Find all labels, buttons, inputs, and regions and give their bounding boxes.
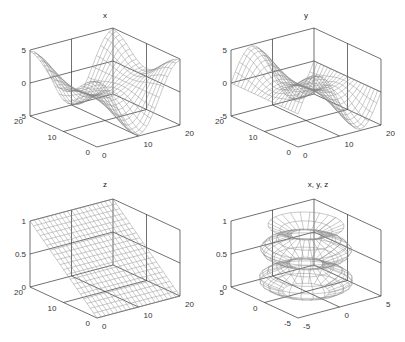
z-tick-label: 1 bbox=[22, 217, 27, 226]
z-tick-label: 0.5 bbox=[15, 250, 27, 259]
z-tick-label: 1 bbox=[223, 217, 228, 226]
wireframe-surface bbox=[231, 46, 381, 129]
subplot-y: y -5050102001020 bbox=[215, 11, 395, 160]
z-tick-label: 5 bbox=[22, 46, 27, 55]
grid-line bbox=[64, 281, 147, 303]
wireframe-surface bbox=[260, 212, 352, 300]
x-tick-label: 0 bbox=[102, 151, 107, 160]
wireframe-surface bbox=[30, 199, 180, 318]
y-tick-label: -5 bbox=[284, 319, 292, 328]
y-tick-label: 10 bbox=[249, 133, 258, 142]
x-tick-label: -5 bbox=[303, 322, 311, 331]
z-tick-label: 0.5 bbox=[216, 250, 228, 259]
y-tick-label: 0 bbox=[287, 148, 292, 157]
figure: x -5050102001020 y -5050102001020 z 00.5… bbox=[0, 0, 405, 342]
y-tick-label: 0 bbox=[86, 148, 91, 157]
x-tick-label: 20 bbox=[386, 129, 395, 138]
subplot-z: z 00.510102001020 bbox=[14, 180, 194, 331]
x-tick-label: 10 bbox=[345, 140, 354, 149]
x-tick-label: 0 bbox=[303, 151, 308, 160]
x-tick-label: 20 bbox=[185, 300, 194, 309]
subplot-title: x, y, z bbox=[308, 180, 328, 189]
subplot-title: z bbox=[103, 180, 107, 189]
subplot-title: y bbox=[304, 11, 308, 20]
y-tick-label: 0 bbox=[253, 304, 258, 313]
subplot-xyz: x, y, z 00.51-505-505 bbox=[216, 180, 391, 331]
x-tick-label: 0 bbox=[102, 322, 107, 331]
z-tick-label: 0 bbox=[22, 79, 27, 88]
x-tick-label: 10 bbox=[144, 140, 153, 149]
subplot-title: x bbox=[103, 11, 107, 20]
y-tick-label: 10 bbox=[48, 304, 57, 313]
z-tick-label: 0 bbox=[223, 79, 228, 88]
y-tick-label: 20 bbox=[215, 117, 224, 126]
x-tick-label: 0 bbox=[345, 311, 350, 320]
y-tick-label: 10 bbox=[48, 133, 57, 142]
x-tick-label: 5 bbox=[386, 300, 391, 309]
x-tick-label: 10 bbox=[144, 311, 153, 320]
y-tick-label: 0 bbox=[86, 319, 91, 328]
z-tick-label: 5 bbox=[223, 46, 228, 55]
y-tick-label: 20 bbox=[14, 288, 23, 297]
grid-line bbox=[265, 110, 348, 132]
subplot-x: x -5050102001020 bbox=[14, 11, 194, 160]
y-tick-label: 20 bbox=[14, 117, 23, 126]
y-tick-label: 5 bbox=[220, 288, 225, 297]
wireframe-surface bbox=[30, 29, 180, 134]
x-tick-label: 20 bbox=[185, 129, 194, 138]
